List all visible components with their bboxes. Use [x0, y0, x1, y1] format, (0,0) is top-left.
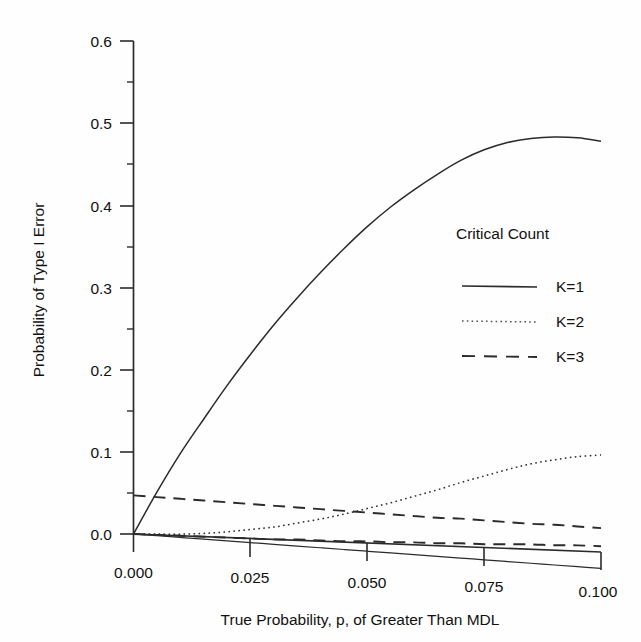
curve-k3: [134, 495, 602, 528]
y-tick-label-0.4: 0.4: [90, 198, 112, 215]
x-tick-label-0.000: 0.000: [114, 564, 153, 581]
chart-canvas: 0.6 0.5 0.4 0.3 0.2 0.1 0.0 Probability …: [0, 0, 641, 642]
legend-sample-k2: [462, 321, 537, 322]
y-tick-label-0.3: 0.3: [90, 280, 112, 297]
legend-label-k2: K=2: [556, 313, 584, 330]
data-curves: [134, 137, 602, 569]
legend: Critical Count K=1 K=2 K=3: [456, 225, 584, 365]
y-tick-label-0.6: 0.6: [90, 33, 112, 50]
y-tick-label-0.1: 0.1: [90, 444, 112, 461]
x-axis-title: True Probability, p, of Greater Than MDL: [221, 611, 500, 628]
y-tick-label-0.5: 0.5: [90, 115, 112, 132]
x-tick-label-0.075: 0.075: [465, 578, 504, 595]
legend-sample-k3: [462, 356, 537, 357]
x-axis: 0.000 0.025 0.050 0.075 0.100 True Proba…: [114, 534, 618, 628]
y-tick-label-0.2: 0.2: [90, 362, 112, 379]
curve-baseline: [134, 534, 602, 568]
chart-figure: 0.6 0.5 0.4 0.3 0.2 0.1 0.0 Probability …: [0, 0, 641, 642]
curve-k1: [134, 137, 602, 534]
y-tick-label-0.0: 0.0: [90, 526, 112, 543]
y-axis-title: Probability of Type I Error: [30, 203, 47, 378]
legend-sample-k1: [462, 286, 537, 287]
x-tick-label-0.100: 0.100: [579, 583, 618, 600]
curve-k2: [134, 455, 602, 534]
x-tick-label-0.025: 0.025: [231, 569, 270, 586]
legend-label-k3: K=3: [556, 348, 584, 365]
legend-title: Critical Count: [456, 225, 550, 242]
legend-label-k1: K=1: [556, 278, 584, 295]
y-axis: 0.6 0.5 0.4 0.3 0.2 0.1 0.0 Probability …: [30, 33, 134, 543]
x-tick-label-0.050: 0.050: [348, 574, 387, 591]
